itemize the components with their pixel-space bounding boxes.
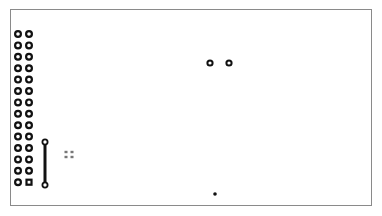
smd-pad [65,151,68,153]
pad-a [207,60,212,65]
header-pin-pad [15,157,21,163]
header-pin-pad [26,43,32,49]
pin-header [15,31,32,186]
header-pin-pad [26,157,32,163]
header-pin-pad [15,111,21,117]
header-pin-pad [15,77,21,83]
header-pin-pad [26,54,32,60]
header-pin-pad [26,65,32,71]
header-pin-pad [26,77,32,83]
header-pin-pad [26,31,32,37]
through-hole-pads [207,60,231,65]
header-pin-pad [15,145,21,151]
header-pin-pad [26,88,32,94]
header-pin-pad [15,168,21,174]
jumper-trace [42,139,47,187]
header-pin-pad [26,168,32,174]
header-pin-pad [15,100,21,106]
via [213,192,217,196]
header-pin-pad [26,122,32,128]
smd-pad [65,156,68,158]
via-dot [213,192,217,196]
header-pin-pad [15,31,21,37]
smd-pad [71,151,74,153]
header-pin-pad [15,65,21,71]
header-pin-pad [26,111,32,117]
smd-cluster [65,151,74,158]
header-pin-pad [15,54,21,60]
pcb-layout [0,0,382,216]
jumper-pad [42,139,47,144]
smd-pad [71,156,74,158]
header-pin-pad [15,88,21,94]
header-pin-pad [15,122,21,128]
header-pin-pad [26,145,32,151]
pad-b [226,60,231,65]
jumper-pad [42,182,47,187]
header-pin-pad [26,134,32,140]
header-pin-pad [15,43,21,49]
header-pin-pad [15,179,21,185]
header-pin-pad [26,100,32,106]
header-pin-pad [15,134,21,140]
